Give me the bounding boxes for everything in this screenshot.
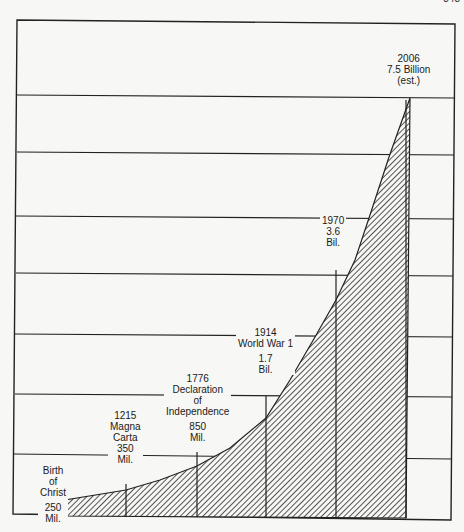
label-world-war-1: 1914 World War 1 1.7 Bil. [236,327,295,375]
label-declaration-of-independence: 1776 Declaration of Independence 850 Mil… [164,373,231,443]
label-1970: 1970 3.6 Bil. [320,215,346,248]
label-2006: 2006 7.5 Billion (est.) [385,53,432,86]
label-birth-of-christ: Birth of Christ 250 Mil. [38,465,68,524]
label-magna-carta: 1215 Magna Carta 350 Mil. [108,410,143,465]
